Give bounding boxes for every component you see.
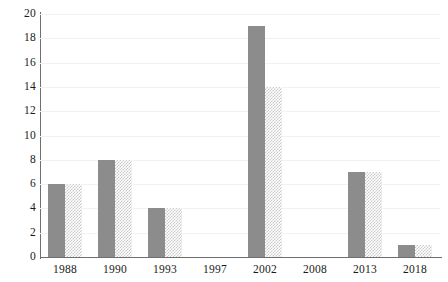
y-axis-tick-label: 16 <box>2 57 36 69</box>
y-axis-tick-label: 4 <box>2 203 36 215</box>
x-axis-tick-label: 1988 <box>53 261 77 278</box>
x-axis-tick-label: 2002 <box>253 261 277 278</box>
y-axis-tick-label: 8 <box>2 154 36 166</box>
y-axis-tick-label: 20 <box>2 8 36 20</box>
bar-series-1-2013 <box>348 172 365 257</box>
bar-series-1-2018 <box>398 245 415 257</box>
x-axis-tick-label: 2018 <box>403 261 427 278</box>
bar-series-2-2002 <box>265 87 282 257</box>
bar-group <box>48 14 82 257</box>
y-axis-tick-label: 10 <box>2 130 36 142</box>
bar-pair <box>298 14 332 257</box>
bar-pair <box>398 14 432 257</box>
x-axis-tick-label: 1993 <box>153 261 177 278</box>
bar-pair <box>98 14 132 257</box>
x-axis-tick-label: 2008 <box>303 261 327 278</box>
bar-series-2-1990 <box>115 160 132 257</box>
y-axis-tick-label: 2 <box>2 227 36 239</box>
y-axis-tick-labels: 02468101214161820 <box>0 0 36 282</box>
bar-pair <box>348 14 382 257</box>
bar-series-2-2013 <box>365 172 382 257</box>
x-axis-tick-labels: 19881990199319972002200820132018 <box>40 261 440 282</box>
bar-series-2-2018 <box>415 245 432 257</box>
bar-pair <box>198 14 232 257</box>
bar-pair <box>148 14 182 257</box>
bar-group <box>198 14 232 257</box>
bar-chart: 02468101214161820 1988199019931997200220… <box>0 0 448 282</box>
y-axis-tick-label: 12 <box>2 105 36 117</box>
y-axis-tick-label: 0 <box>2 251 36 263</box>
bar-series-1-1993 <box>148 208 165 257</box>
bar-series-2-1988 <box>65 184 82 257</box>
y-axis-tick-label: 6 <box>2 178 36 190</box>
bar-group <box>148 14 182 257</box>
x-axis-line <box>40 257 442 258</box>
bar-group <box>248 14 282 257</box>
bar-group <box>98 14 132 257</box>
bar-pair <box>48 14 82 257</box>
y-axis-tick-label: 14 <box>2 81 36 93</box>
bar-series-2-1993 <box>165 208 182 257</box>
bar-group <box>298 14 332 257</box>
x-axis-tick-label: 2013 <box>353 261 377 278</box>
bar-series-1-2002 <box>248 26 265 257</box>
x-axis-tick-label: 1990 <box>103 261 127 278</box>
x-axis-tick-label: 1997 <box>203 261 227 278</box>
bar-group <box>348 14 382 257</box>
bar-series-1-1988 <box>48 184 65 257</box>
bar-series-1-1990 <box>98 160 115 257</box>
y-axis-tick-label: 18 <box>2 33 36 45</box>
bar-pair <box>248 14 282 257</box>
plot-area <box>40 14 440 257</box>
bar-group <box>398 14 432 257</box>
